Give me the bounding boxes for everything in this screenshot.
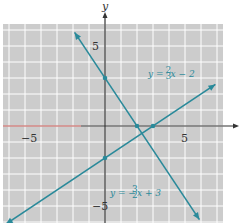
equation-rhs: x + 3 <box>137 188 161 198</box>
y-axis-label: y <box>101 0 109 13</box>
equation-lhs: y = <box>147 69 164 79</box>
data-point <box>151 124 156 129</box>
equation-rhs: x − 2 <box>171 69 195 79</box>
chart: −555−5 x y y = 23x − 2y = −32x + 3 <box>0 0 241 223</box>
data-point <box>103 156 108 161</box>
x-tick-label: −5 <box>21 132 37 145</box>
data-point <box>103 76 108 81</box>
y-tick-label: −5 <box>92 200 108 213</box>
y-tick-label: 5 <box>92 40 99 53</box>
data-point <box>135 124 140 129</box>
x-axis-arrow-icon <box>233 124 239 129</box>
x-tick-label: 5 <box>181 132 188 145</box>
